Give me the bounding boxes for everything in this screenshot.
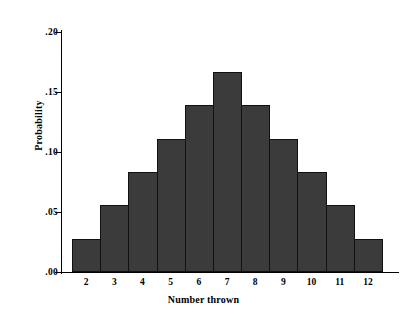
y-axis-tick-label: .20 [45,27,58,37]
x-axis-tick-label: 3 [112,277,117,287]
y-axis-tick-label: .15 [45,87,58,97]
bar [297,172,326,272]
x-axis-tick-label: 10 [307,277,317,287]
x-axis-tick-label: 11 [335,277,344,287]
y-axis-title: Probability [33,66,44,186]
bar [354,239,383,272]
x-axis-line [56,272,399,273]
x-axis-tick-label: 4 [140,277,145,287]
y-axis-tick-label: .00 [45,267,58,277]
y-axis-tick-label: .10 [45,147,58,157]
x-axis-tick-label: 8 [253,277,258,287]
bar [157,139,186,272]
bar [241,105,270,272]
bar [185,105,214,272]
bar [326,205,355,272]
x-axis-tick-label: 2 [84,277,89,287]
bar [128,172,157,272]
probability-histogram: .00.05.10.15.20 23456789101112 Probabili… [0,0,407,318]
x-axis-tick-label: 5 [168,277,173,287]
x-axis-tick-label: 6 [196,277,201,287]
bar [100,205,129,272]
x-axis-tick-label: 12 [363,277,373,287]
x-axis-tick-label: 9 [281,277,286,287]
bar [213,72,242,272]
x-axis-tick-label: 7 [225,277,230,287]
bar [269,139,298,272]
plot-area [72,32,382,272]
y-axis-tick-label: .05 [45,207,58,217]
bar [72,239,101,272]
x-axis-title: Number thrown [0,294,407,305]
